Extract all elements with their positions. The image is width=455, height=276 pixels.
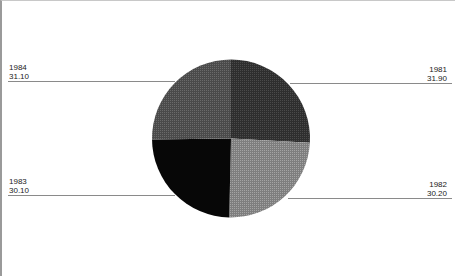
- label-year-1984: 1984: [9, 63, 27, 72]
- pie-slice-1984[interactable]: [152, 60, 231, 140]
- pie-slice-1982[interactable]: [229, 139, 310, 218]
- pie-slice-1981[interactable]: [231, 60, 310, 143]
- label-value-1984: 31.10: [9, 72, 30, 81]
- label-year-1983: 1983: [9, 177, 27, 186]
- label-year-1982: 1982: [429, 180, 447, 189]
- label-value-1982: 30.20: [427, 189, 448, 198]
- label-year-1981: 1981: [429, 65, 447, 74]
- pie-chart: 1984 31.10 1981 31.90 1983 30.10 1982 30…: [0, 0, 455, 276]
- pie-slice-1983[interactable]: [152, 139, 231, 218]
- label-value-1981: 31.90: [427, 74, 448, 83]
- label-value-1983: 30.10: [9, 186, 30, 195]
